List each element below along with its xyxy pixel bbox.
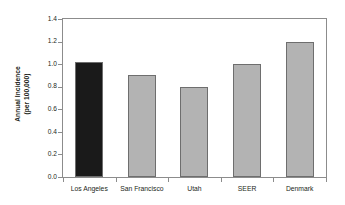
y-axis-tick-label: 0.0 [17,174,57,181]
bar[interactable] [233,64,261,177]
x-axis-tick-mark [116,178,117,182]
bar-slot [221,19,274,177]
x-axis-tick-mark [221,178,222,182]
x-axis-category-label: Utah [168,185,221,193]
x-axis-tick-mark [63,178,64,182]
bar[interactable] [128,75,156,177]
x-axis-tick-mark [326,178,327,182]
y-axis-tick-label: 0.6 [17,106,57,113]
x-axis-tick-mark [168,178,169,182]
y-axis-tick-label: 0.2 [17,151,57,158]
bar[interactable] [75,62,103,177]
x-axis-category-label: Los Angeles [63,185,116,193]
y-axis-tick-label: 1.4 [17,16,57,23]
bar-slot [116,19,169,177]
bar-slot [63,19,116,177]
x-axis-category-label: SEER [221,185,274,193]
bar[interactable] [286,42,314,177]
y-axis-tick-label: 1.0 [17,61,57,68]
y-axis-tick-label: 0.4 [17,129,57,136]
x-axis-category-label: Denmark [273,185,326,193]
y-axis-tick-label: 0.8 [17,83,57,90]
y-axis-tick-label: 1.2 [17,38,57,45]
bar[interactable] [180,87,208,177]
bar-slot [168,19,221,177]
bar-series [63,19,326,177]
bar-chart: Annual Incidence (per 100,000) 0.00.20.4… [0,0,345,205]
x-axis-category-label: San Francisco [116,185,169,193]
bar-slot [273,19,326,177]
x-axis-tick-mark [273,178,274,182]
